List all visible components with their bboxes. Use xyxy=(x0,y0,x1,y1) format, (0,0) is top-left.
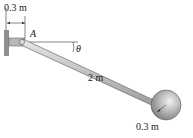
sphere-radius-label: 0.3 m xyxy=(136,121,159,132)
pivot-label: A xyxy=(30,28,36,39)
wall-offset-label: 0.3 m xyxy=(4,2,27,13)
angle-arc xyxy=(73,42,74,52)
rod-length-label: 2 m xyxy=(88,72,103,83)
wall xyxy=(4,8,9,56)
pendulum-diagram xyxy=(0,0,193,138)
angle-label: θ xyxy=(76,43,81,54)
wall-offset-dimension xyxy=(7,16,25,38)
pivot-pin xyxy=(19,39,24,44)
